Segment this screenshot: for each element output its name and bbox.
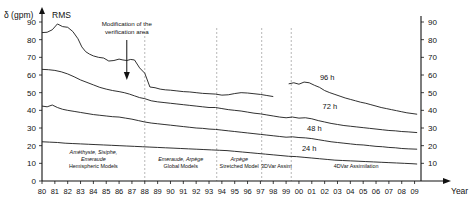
y-tick-label-right-90: 90 bbox=[428, 18, 437, 27]
x-tick-label-90: 90 bbox=[166, 187, 174, 196]
y-tick-label-left-20: 20 bbox=[27, 142, 36, 151]
y-tick-label-left-80: 80 bbox=[27, 36, 36, 45]
x-tick-label-02: 02 bbox=[320, 187, 328, 196]
y-tick-label-left-10: 10 bbox=[27, 159, 36, 168]
y-tick-label-left-70: 70 bbox=[27, 53, 36, 62]
era-label-4dvar-assimilation-line1: 4DVar Assimilation bbox=[334, 163, 379, 169]
era-label-global-models-line2: Global Models bbox=[164, 163, 199, 169]
x-tick-label-83: 83 bbox=[76, 187, 84, 196]
x-tick-label-04: 04 bbox=[346, 187, 354, 196]
x-tick-label-08: 08 bbox=[398, 187, 406, 196]
y-tick-label-right-80: 80 bbox=[428, 36, 437, 45]
y-tick-label-left-0: 0 bbox=[32, 177, 37, 186]
y-tick-label-right-30: 30 bbox=[428, 124, 437, 133]
x-tick-label-89: 89 bbox=[153, 187, 161, 196]
x-tick-label-82: 82 bbox=[64, 187, 72, 196]
x-tick-label-01: 01 bbox=[308, 187, 316, 196]
x-tick-label-94: 94 bbox=[218, 187, 226, 196]
x-tick-label-80: 80 bbox=[38, 187, 46, 196]
era-label-stretched-model-line1: Arpège bbox=[230, 156, 248, 162]
y-tick-label-right-70: 70 bbox=[428, 53, 437, 62]
x-tick-label-91: 91 bbox=[179, 187, 187, 196]
curve-label-96h: 96 h bbox=[320, 73, 335, 82]
y-tick-label-left-40: 40 bbox=[27, 106, 36, 115]
era-label-hemispheric-models-line3: Hemispheric Models bbox=[69, 163, 118, 169]
x-tick-label-92: 92 bbox=[192, 187, 200, 196]
x-tick-label-03: 03 bbox=[333, 187, 341, 196]
curve-72h bbox=[42, 69, 417, 132]
x-tick-label-95: 95 bbox=[231, 187, 239, 196]
x-tick-label-09: 09 bbox=[410, 187, 418, 196]
curve-label-24h: 24 h bbox=[302, 144, 317, 153]
curve-96h-seg0 bbox=[42, 24, 273, 97]
x-tick-label-87: 87 bbox=[128, 187, 136, 196]
era-label-hemispheric-models-line1: Améthyste, Sisiphe, bbox=[69, 149, 118, 155]
era-label-hemispheric-models-line2: Emeraude bbox=[81, 156, 106, 162]
x-tick-label-99: 99 bbox=[282, 187, 290, 196]
y-tick-label-left-50: 50 bbox=[27, 89, 36, 98]
x-tick-label-85: 85 bbox=[102, 187, 110, 196]
x-tick-label-84: 84 bbox=[89, 187, 97, 196]
y-axis-left-arrow bbox=[39, 7, 45, 14]
y-axis-unit-label: δ (gpm) bbox=[4, 10, 33, 20]
curve-label-48h: 48 h bbox=[307, 124, 322, 133]
x-tick-label-96: 96 bbox=[243, 187, 251, 196]
y-tick-label-left-60: 60 bbox=[27, 71, 36, 80]
curve-label-72h: 72 h bbox=[322, 102, 337, 111]
y-tick-label-right-50: 50 bbox=[428, 89, 437, 98]
y-tick-label-right-60: 60 bbox=[428, 71, 437, 80]
x-tick-label-97: 97 bbox=[256, 187, 264, 196]
rms-forecast-error-chart: 0102030405060708090102030405060708090808… bbox=[0, 0, 473, 214]
x-tick-label-05: 05 bbox=[359, 187, 367, 196]
x-tick-label-00: 00 bbox=[295, 187, 303, 196]
y-tick-label-right-10: 10 bbox=[428, 159, 437, 168]
era-label-3dvar-assim-line1: 3DVar Assim bbox=[261, 163, 292, 169]
era-label-global-models-line1: Emeraude, Arpège bbox=[158, 156, 203, 162]
x-tick-label-86: 86 bbox=[115, 187, 123, 196]
x-tick-label-88: 88 bbox=[141, 187, 149, 196]
x-axis-title: Year bbox=[451, 186, 468, 196]
y-tick-label-right-40: 40 bbox=[428, 106, 437, 115]
era-label-stretched-model-line2: Stretched Model bbox=[220, 163, 259, 169]
y-tick-label-left-30: 30 bbox=[27, 124, 36, 133]
x-tick-label-06: 06 bbox=[372, 187, 380, 196]
chart-container: 0102030405060708090102030405060708090808… bbox=[0, 0, 473, 214]
x-tick-label-98: 98 bbox=[269, 187, 277, 196]
x-axis-arrow bbox=[443, 178, 451, 184]
curve-96h-seg1 bbox=[289, 82, 417, 114]
annotation-line1: Modification of the bbox=[102, 20, 153, 27]
annotation-line2: verification area bbox=[105, 28, 149, 35]
annotation-arrow-head bbox=[124, 72, 130, 80]
x-tick-label-93: 93 bbox=[205, 187, 213, 196]
y-tick-label-right-20: 20 bbox=[428, 142, 437, 151]
x-tick-label-81: 81 bbox=[51, 187, 59, 196]
chart-title: RMS bbox=[52, 10, 71, 20]
x-tick-label-07: 07 bbox=[385, 187, 393, 196]
